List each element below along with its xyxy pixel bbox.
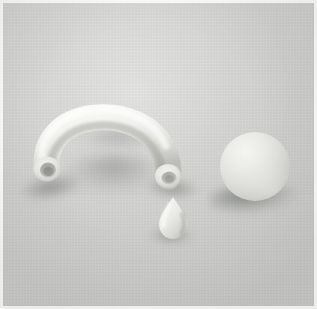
photograph-canvas: still-life of three pale clay objects on… — [0, 0, 317, 309]
sphere-bounce-light — [220, 132, 290, 201]
